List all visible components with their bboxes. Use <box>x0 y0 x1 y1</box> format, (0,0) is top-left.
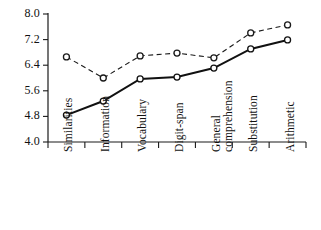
chart-container: 8.07.26.45.64.84.0 SimilaritiesInformati… <box>0 0 321 230</box>
y-axis-tick-label: 4.0 <box>8 134 40 149</box>
y-axis-tick-label: 5.6 <box>8 83 40 98</box>
y-axis-ticks <box>43 14 48 142</box>
data-point-marker <box>211 65 217 71</box>
data-point-marker <box>211 55 217 61</box>
x-axis-tick-label: Information <box>99 96 111 152</box>
y-axis-tick-label: 7.2 <box>8 32 40 47</box>
data-point-marker <box>285 37 291 43</box>
data-point-marker <box>248 30 254 36</box>
y-axis-tick-label: 8.0 <box>8 6 40 21</box>
data-point-marker <box>137 53 143 59</box>
x-axis-tick-label: comprehension <box>222 80 234 152</box>
data-point-marker <box>137 76 143 82</box>
x-axis-tick-label: Substitution <box>247 95 259 152</box>
x-axis-tick-label: General <box>210 115 222 152</box>
data-point-marker <box>174 74 180 80</box>
data-point-marker <box>100 75 106 81</box>
plot-area <box>0 0 321 230</box>
data-point-marker <box>285 22 291 28</box>
data-point-marker <box>63 54 69 60</box>
x-axis-tick-label: Vocabulary <box>136 99 148 152</box>
x-axis-tick-label: Similarities <box>62 98 74 152</box>
x-axis-tick-label: Digit-span <box>173 102 185 152</box>
data-point-marker <box>248 46 254 52</box>
data-point-marker <box>174 50 180 56</box>
y-axis-tick-label: 4.8 <box>8 108 40 123</box>
y-axis-tick-label: 6.4 <box>8 57 40 72</box>
x-axis-tick-label: Arithmetic <box>284 101 296 152</box>
